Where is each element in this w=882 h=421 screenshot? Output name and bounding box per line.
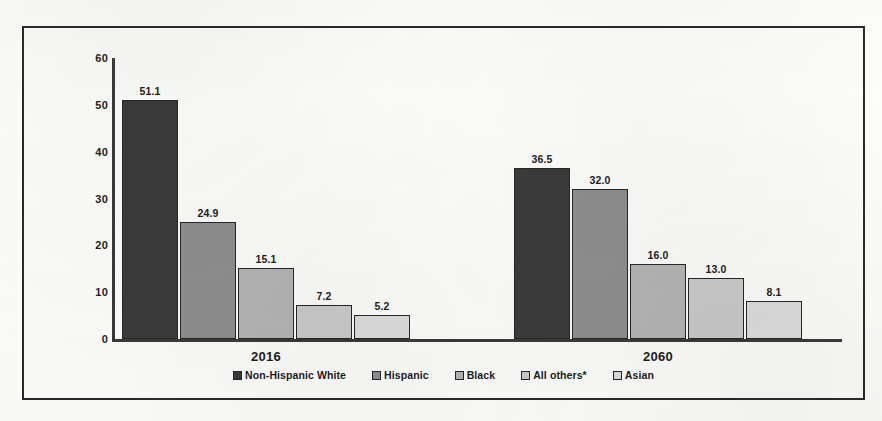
bar-value-label: 51.1 (140, 85, 161, 97)
y-axis-tick-label: 40 (74, 146, 108, 157)
y-axis-line (112, 58, 115, 339)
bar-value-label: 8.1 (767, 286, 782, 298)
bar[interactable] (296, 305, 352, 339)
legend-swatch-icon (372, 371, 381, 380)
legend-item[interactable]: Non-Hispanic White (233, 369, 346, 381)
y-axis-tick-label: 30 (74, 193, 108, 204)
bar-value-label: 7.2 (317, 290, 332, 302)
x-axis-line (112, 339, 842, 342)
y-axis-tick-label: 50 (74, 99, 108, 110)
legend-label: Hispanic (384, 369, 429, 381)
group-caption-2016: 2016 (251, 349, 281, 364)
legend-swatch-icon (233, 371, 242, 380)
chart-frame: 0102030405060 51.124.915.17.25.236.532.0… (22, 26, 865, 400)
bar[interactable] (122, 100, 178, 339)
bar[interactable] (746, 301, 802, 339)
y-axis-tick-label: 0 (74, 334, 108, 345)
group-caption-2060: 2060 (643, 349, 673, 364)
legend-item[interactable]: Hispanic (372, 369, 429, 381)
scanned-page: 0102030405060 51.124.915.17.25.236.532.0… (0, 0, 882, 421)
legend-swatch-icon (455, 371, 464, 380)
chart-legend: Non-Hispanic WhiteHispanicBlackAll other… (24, 369, 863, 381)
bar-value-label: 13.0 (706, 263, 727, 275)
legend-swatch-icon (521, 371, 530, 380)
y-axis-tick-label: 20 (74, 240, 108, 251)
bar[interactable] (514, 168, 570, 339)
y-axis-tick-labels: 0102030405060 (64, 28, 108, 398)
bar-value-label: 36.5 (532, 153, 553, 165)
legend-item[interactable]: Asian (613, 369, 654, 381)
legend-label: Non-Hispanic White (245, 369, 346, 381)
legend-item[interactable]: Black (455, 369, 496, 381)
y-axis-tick-label: 60 (74, 53, 108, 64)
bar[interactable] (180, 222, 236, 339)
bar-value-label: 24.9 (198, 207, 219, 219)
bar[interactable] (354, 315, 410, 339)
bar-value-label: 32.0 (590, 174, 611, 186)
legend-item[interactable]: All others* (521, 369, 587, 381)
y-axis-tick-label: 10 (74, 287, 108, 298)
bar-value-label: 5.2 (375, 300, 390, 312)
bar-value-label: 15.1 (256, 253, 277, 265)
bar[interactable] (572, 189, 628, 339)
bar[interactable] (688, 278, 744, 339)
legend-swatch-icon (613, 371, 622, 380)
bar[interactable] (630, 264, 686, 339)
bar[interactable] (238, 268, 294, 339)
legend-label: Black (467, 369, 496, 381)
legend-label: Asian (625, 369, 654, 381)
legend-label: All others* (533, 369, 587, 381)
plot-area: 0102030405060 51.124.915.17.25.236.532.0… (24, 28, 863, 398)
bar-value-label: 16.0 (648, 249, 669, 261)
